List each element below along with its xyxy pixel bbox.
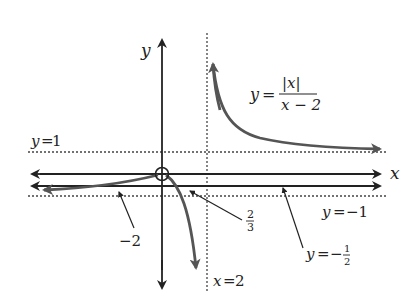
svg-text:y: y	[249, 85, 260, 104]
svg-text:x: x	[213, 272, 222, 290]
svg-text:2: 2	[247, 208, 254, 221]
svg-text:3: 3	[247, 221, 254, 234]
svg-text:=: =	[223, 272, 236, 290]
label-two-thirds: 2 3	[246, 208, 254, 234]
curve-left-branch	[44, 175, 158, 190]
svg-text:1: 1	[344, 243, 350, 254]
pointer-y-neg-half	[283, 188, 303, 248]
curve-middle-branch	[166, 175, 196, 268]
label-y-equals-1: y = 1	[30, 132, 62, 150]
svg-text:y: y	[321, 203, 331, 221]
svg-text:2: 2	[344, 256, 350, 267]
function-graph: y x y = |x| x − 2 y = 1 y = −1 x = 2 −2 …	[0, 0, 419, 308]
svg-text:x − 2: x − 2	[281, 96, 321, 114]
svg-text:=: =	[333, 203, 346, 221]
svg-text:−1: −1	[346, 203, 368, 221]
label-y-equals-neg-half: y = − 1 2	[305, 243, 350, 267]
pointer-minus-two	[119, 192, 134, 228]
label-x-equals-2: x = 2	[213, 272, 245, 290]
svg-text:=: =	[262, 85, 275, 104]
label-minus-two: −2	[119, 232, 141, 250]
svg-text:2: 2	[235, 272, 245, 290]
svg-text:|x|: |x|	[282, 74, 301, 92]
curve-right-branch-top	[213, 64, 220, 110]
svg-text:=: =	[317, 245, 330, 263]
svg-text:y: y	[30, 132, 40, 150]
svg-text:1: 1	[52, 132, 62, 150]
function-label: y = |x| x − 2	[249, 74, 321, 114]
label-y-equals-neg1: y = −1	[321, 203, 368, 221]
x-axis-label: x	[390, 163, 400, 183]
svg-text:y: y	[305, 245, 315, 263]
svg-text:−: −	[330, 245, 343, 263]
y-axis-label: y	[140, 40, 151, 60]
